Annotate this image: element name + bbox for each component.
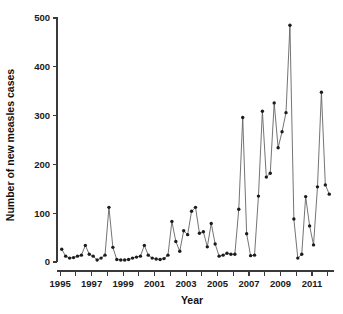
data-point [288, 24, 291, 27]
data-point [119, 258, 122, 261]
data-point [103, 253, 106, 256]
data-point [213, 242, 216, 245]
data-point [123, 258, 126, 261]
data-point [312, 243, 315, 246]
data-point [237, 208, 240, 211]
y-tick-label-400: 400 [34, 61, 50, 72]
x-tick-label-2007: 2007 [238, 278, 259, 289]
x-tick-label-2011: 2011 [302, 278, 323, 289]
data-point [233, 252, 236, 255]
data-point [280, 130, 283, 133]
data-point [272, 101, 275, 104]
data-point [221, 253, 224, 256]
y-tick-label-0: 0 [45, 256, 50, 267]
data-point [249, 254, 252, 257]
x-tick-label-2005: 2005 [207, 278, 229, 289]
x-axis-ticks: 199519971999200120032005200720092011 [50, 271, 328, 289]
data-point [72, 256, 75, 259]
y-axis-title: Number of new measles cases [4, 69, 16, 221]
y-tick-label-200: 200 [34, 159, 50, 170]
y-tick-label-300: 300 [34, 110, 50, 121]
data-point [92, 254, 95, 257]
y-tick-label-100: 100 [34, 208, 50, 219]
data-point [80, 253, 83, 256]
data-point [76, 254, 79, 257]
data-point [154, 257, 157, 260]
data-point [276, 146, 279, 149]
data-point [324, 183, 327, 186]
data-point [202, 230, 205, 233]
x-tick-label-2009: 2009 [270, 278, 291, 289]
data-point [304, 195, 307, 198]
x-tick-label-1999: 1999 [113, 278, 134, 289]
data-point [135, 255, 138, 258]
data-point [206, 245, 209, 248]
data-point [241, 116, 244, 119]
data-point [95, 258, 98, 261]
data-point [131, 256, 134, 259]
data-point [245, 232, 248, 235]
x-axis-group: 199519971999200120032005200720092011 [50, 271, 334, 289]
data-point [194, 206, 197, 209]
data-point [170, 220, 173, 223]
x-axis-title: Year [181, 294, 203, 306]
data-point [182, 229, 185, 232]
data-point [111, 246, 114, 249]
data-point [107, 206, 110, 209]
data-point [190, 210, 193, 213]
data-point [115, 258, 118, 261]
data-series-measles [60, 24, 331, 262]
data-point [186, 233, 189, 236]
data-point [320, 90, 323, 93]
chart-canvas: 0100200300400500 19951997199920012003200… [0, 0, 343, 314]
data-point [308, 224, 311, 227]
data-point [166, 253, 169, 256]
data-point [229, 252, 232, 255]
data-point [217, 254, 220, 257]
data-point [261, 110, 264, 113]
data-point [147, 253, 150, 256]
x-tick-label-1995: 1995 [50, 278, 72, 289]
y-tick-label-500: 500 [34, 12, 50, 23]
y-axis-ticks: 0100200300400500 [34, 12, 57, 267]
data-point [174, 240, 177, 243]
y-axis-group: 0100200300400500 [34, 12, 57, 267]
data-point [269, 171, 272, 174]
data-point [162, 257, 165, 260]
data-point [225, 252, 228, 255]
data-point [296, 256, 299, 259]
data-point [127, 258, 130, 261]
data-point [253, 253, 256, 256]
data-point [84, 244, 87, 247]
data-point [99, 256, 102, 259]
data-point [328, 192, 331, 195]
data-point [284, 111, 287, 114]
data-point [139, 254, 142, 257]
data-point [300, 252, 303, 255]
measles-cases-chart-figure: 0100200300400500 19951997199920012003200… [0, 0, 343, 314]
data-point [143, 244, 146, 247]
data-point [151, 256, 154, 259]
data-point [257, 194, 260, 197]
data-point [292, 217, 295, 220]
x-tick-label-2001: 2001 [144, 278, 166, 289]
data-point [64, 254, 67, 257]
series-line-0 [62, 25, 330, 260]
data-point [265, 175, 268, 178]
data-point [158, 258, 161, 261]
data-point [210, 222, 213, 225]
data-point [178, 250, 181, 253]
data-point [198, 232, 201, 235]
x-tick-label-1997: 1997 [81, 278, 102, 289]
data-point [68, 256, 71, 259]
x-tick-label-2003: 2003 [175, 278, 196, 289]
data-point [60, 248, 63, 251]
data-point [88, 252, 91, 255]
data-point [316, 185, 319, 188]
